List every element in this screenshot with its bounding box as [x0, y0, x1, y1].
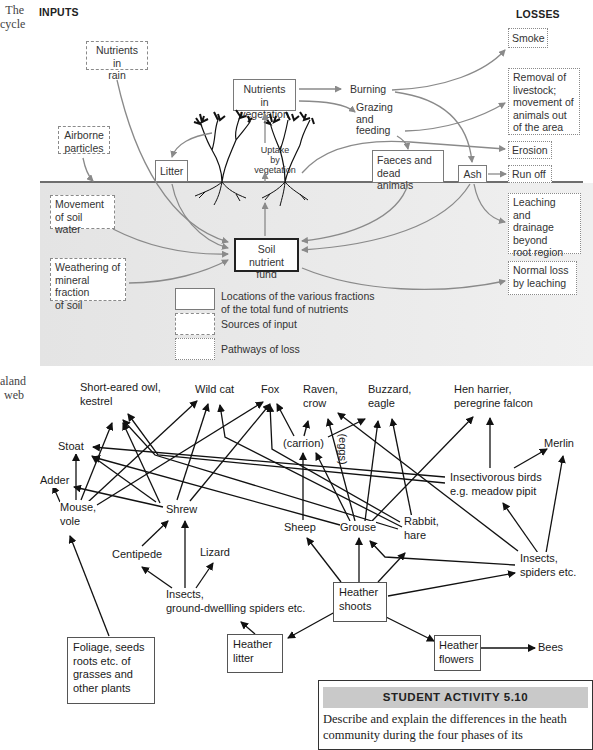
node-heather-flowers: Heather flowers	[434, 635, 481, 671]
movement-of-soil-water-box: Movement of soil water	[50, 195, 115, 229]
node-lizard: Lizard	[200, 546, 230, 560]
arrow-rabbit-to-owl	[123, 420, 398, 529]
arrow-foliage-to-mouse	[70, 536, 109, 636]
node-stoat: Stoat	[58, 440, 84, 454]
losses-heading: LOSSES	[516, 8, 560, 20]
node-buzzard-eagle: Buzzard, eagle	[368, 383, 411, 410]
arrow-heather-shoots-to-insects-spiders	[388, 573, 515, 596]
arrow-grouse-to-hen-harrier	[372, 417, 473, 521]
arrow-grazing-to-faeces	[397, 136, 408, 149]
arrow-mouse-to-fox	[97, 402, 263, 505]
arrow-grazing-to-removal	[405, 103, 505, 131]
node-mouse-vole: Mouse, vole	[60, 501, 96, 528]
legend-swatch-solid	[175, 288, 215, 310]
node-wild-cat: Wild cat	[195, 383, 234, 397]
smoke-box: Smoke	[508, 28, 548, 48]
inputs-heading: INPUTS	[39, 6, 79, 18]
node-merlin: Merlin	[544, 437, 574, 451]
node-adder: Adder	[40, 474, 69, 488]
ground-line	[40, 181, 583, 183]
arrow-airborne-to-ground	[83, 158, 93, 181]
arrow-burning-to-smoke	[392, 50, 505, 90]
arrow-insects-ground-to-lizard	[196, 563, 213, 588]
arrow-insects-ground-to-centipede	[142, 567, 172, 588]
arrow-heather-shoots-to-rabbit	[378, 553, 405, 582]
node-heather-litter: Heather litter	[227, 634, 283, 673]
legend-label-pathways: Pathways of loss	[221, 343, 300, 356]
arrow-rabbit-to-wild-cat	[220, 405, 402, 527]
leaching-and-drainage-box: Leaching and drainage beyond root region	[508, 193, 581, 254]
grazing-and-feeding-label: Grazing and feeding	[356, 102, 393, 137]
arrow-carrion-to-fox	[277, 404, 294, 436]
node-foliage: Foliage, seeds roots etc. of grasses and…	[67, 637, 155, 704]
student-activity-box: STUDENT ACTIVITY 5.10 Describe and expla…	[318, 680, 593, 750]
node-heather-shoots: Heather shoots	[333, 582, 387, 622]
legend-swatch-dashed	[175, 313, 215, 335]
arrow-carrion-to-raven	[304, 421, 308, 436]
run-off-box: Run off	[508, 165, 552, 183]
removal-of-livestock-box: Removal of livestock; movement of animal…	[508, 68, 580, 135]
arrow-heather-shoots-to-sheep	[307, 538, 341, 582]
arrow-shrew-to-fox	[190, 404, 270, 501]
arrow-insects-spiders-to-grouse	[370, 541, 515, 565]
arrow-insectivorous-birds-to-merlin	[514, 449, 547, 468]
arrow-rabbit-to-buzzard	[392, 419, 412, 518]
node-rabbit-hare: Rabbit, hare	[404, 515, 439, 542]
nutrients-in-rain-box: Nutrients in rain	[86, 41, 148, 70]
arrow-mouse-to-wild-cat	[88, 401, 197, 502]
arrow-shrew-to-wild-cat	[177, 404, 208, 500]
figure-caption-nutrient-cycle: The cycle	[0, 3, 24, 31]
arrow-insectivorous-birds-to-stoat	[93, 447, 445, 477]
arrow-insects-spiders-to-merlin	[546, 456, 563, 553]
figure-caption-food-web: aland web	[0, 374, 24, 402]
arrow-mouse-to-owl	[81, 423, 112, 500]
arrow-vegetation-to-grazing	[299, 101, 355, 112]
legend-label-sources: Sources of input	[221, 318, 297, 331]
node-grouse: Grouse	[340, 521, 376, 535]
node-hen-harrier: Hen harrier, peregrine falcon	[454, 383, 533, 410]
normal-loss-by-leaching-box: Normal loss by leaching	[508, 261, 577, 295]
legend-swatch-dotted	[175, 338, 215, 360]
arrow-heather-shoots-to-heather-flowers	[386, 617, 434, 641]
faeces-and-dead-animals-box: Faeces and dead animals	[372, 150, 444, 183]
node-insects-spiders: Insects, spiders etc.	[520, 552, 576, 579]
arrow-centipede-to-shrew	[142, 521, 168, 546]
arrow-grouse-to-stoat	[93, 457, 340, 525]
burning-label: Burning	[350, 83, 386, 96]
node-centipede: Centipede	[112, 548, 162, 562]
node-sheep: Sheep	[284, 521, 316, 535]
erosion-box: Erosion	[508, 141, 552, 159]
arrow-vegetation-to-litter	[172, 133, 212, 157]
litter-box: Litter	[155, 160, 188, 182]
node-insects-ground-dwelling: Insects, ground-dwellling spiders etc.	[166, 588, 305, 615]
arrow-shrew-to-owl	[123, 423, 160, 503]
node-carrion: (carrion)	[283, 437, 324, 451]
uptake-by-vegetation-label: Uptake by vegetation	[252, 145, 298, 175]
node-insectivorous-birds: Insectivorous birds e.g. meadow pipit	[450, 471, 542, 498]
soil-nutrient-fund-box: Soil nutrient fund	[234, 238, 299, 272]
student-activity-title: STUDENT ACTIVITY 5.10	[323, 687, 588, 708]
node-bees: Bees	[538, 641, 563, 655]
arrow-grouse-to-buzzard	[365, 421, 378, 521]
node-raven-crow: Raven, crow	[303, 383, 338, 410]
arrow-mouse-to-adder	[53, 486, 60, 502]
ash-box: Ash	[458, 165, 487, 183]
arrow-rabbit-to-fox	[270, 405, 400, 522]
node-short-eared-owl: Short-eared owl, kestrel	[80, 381, 161, 408]
weathering-box: Weathering of mineral fraction of soil	[50, 258, 126, 301]
student-activity-text: Describe and explain the differences in …	[323, 711, 590, 743]
legend-label-locations: Locations of the various fractions of th…	[221, 290, 375, 315]
node-shrew: Shrew	[166, 503, 197, 517]
arrow-shrew-to-stoat	[92, 456, 156, 502]
arrow-heather-shoots-to-heather-litter	[288, 612, 335, 638]
node-fox: Fox	[261, 383, 279, 397]
label-eggs: (eggs)	[337, 433, 349, 464]
arrow-heather-litter-to-insects-ground	[241, 622, 255, 634]
airborne-particles-box: Airborne particles	[58, 126, 110, 154]
arrow-insects-spiders-to-insectivorous-birds	[503, 503, 538, 553]
nutrients-in-vegetation-box: Nutrients in vegetation	[233, 79, 296, 111]
